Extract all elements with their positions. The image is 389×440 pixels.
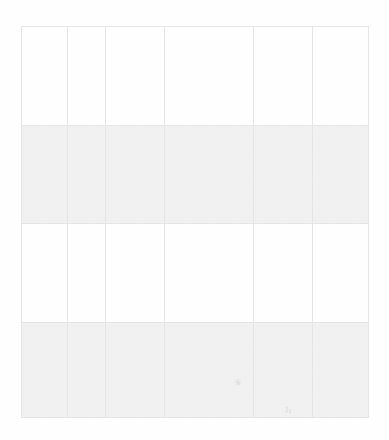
table-cell[interactable] (313, 224, 369, 323)
table-cell-text (106, 27, 164, 31)
table-cell-text (106, 323, 164, 327)
table-cell[interactable] (254, 27, 313, 126)
table-cell-text (106, 126, 164, 130)
table-cell[interactable] (106, 224, 165, 323)
table-cell-text (313, 224, 368, 228)
table-cell[interactable] (68, 323, 106, 418)
scan-surface: ✳ ʇ (0, 0, 389, 440)
table-row[interactable] (22, 224, 369, 323)
table-cell-text (22, 224, 67, 228)
table-cell[interactable] (165, 323, 254, 418)
table-cell-text (313, 27, 368, 31)
table-cell[interactable] (313, 126, 369, 224)
table-cell[interactable] (68, 126, 106, 224)
table-cell-text (254, 126, 312, 130)
table-cell-text (68, 126, 105, 130)
data-table (21, 26, 369, 418)
table-cell[interactable] (313, 27, 369, 126)
table-cell[interactable] (22, 224, 68, 323)
table-row[interactable] (22, 27, 369, 126)
table-cell[interactable] (165, 126, 254, 224)
table-cell-text (313, 126, 368, 130)
table-cell-text (22, 27, 67, 31)
table-cell[interactable] (68, 224, 106, 323)
table-cell[interactable] (22, 126, 68, 224)
table-cell-text (165, 27, 253, 31)
table-cell-text (22, 323, 67, 327)
table-cell[interactable] (313, 323, 369, 418)
table-cell[interactable] (106, 126, 165, 224)
table-cell-text (106, 224, 164, 228)
table-cell-text (22, 126, 67, 130)
table-cell[interactable] (22, 323, 68, 418)
table-row[interactable] (22, 323, 369, 418)
table-cell[interactable] (106, 27, 165, 126)
table-row[interactable] (22, 126, 369, 224)
table-cell[interactable] (22, 27, 68, 126)
table-cell[interactable] (254, 126, 313, 224)
table-cell-text (313, 323, 368, 327)
table-cell[interactable] (106, 323, 165, 418)
table-cell-text (254, 224, 312, 228)
table-cell[interactable] (165, 27, 254, 126)
table-cell[interactable] (68, 27, 106, 126)
table-body (22, 27, 369, 418)
table-cell[interactable] (254, 323, 313, 418)
table-cell-text (165, 224, 253, 228)
table-cell-text (68, 323, 105, 327)
table-cell[interactable] (165, 224, 254, 323)
table-cell-text (165, 323, 253, 327)
table-cell-text (68, 27, 105, 31)
table-cell[interactable] (254, 224, 313, 323)
table-cell-text (165, 126, 253, 130)
table-cell-text (68, 224, 105, 228)
table-cell-text (254, 27, 312, 31)
table-cell-text (254, 323, 312, 327)
